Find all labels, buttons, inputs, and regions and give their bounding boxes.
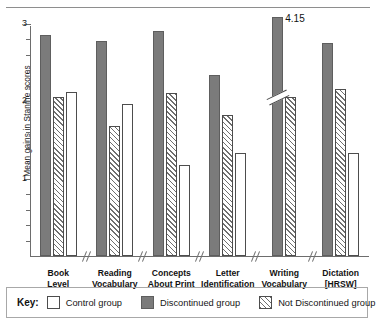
bar-notdiscontinued [335, 89, 346, 256]
bar-discontinued [96, 41, 107, 256]
y-tick-minor [26, 241, 31, 242]
bar-notdiscontinued [53, 97, 64, 256]
legend-box: Key: Control groupDiscontinued groupNot … [6, 287, 368, 318]
y-tick-minor [26, 132, 31, 133]
bar-notdiscontinued [109, 126, 120, 256]
bar-notdiscontinued [285, 97, 296, 256]
category-label: BookLevel [30, 268, 87, 289]
category-label-line: Dictation [313, 268, 370, 279]
y-tick-minor [26, 86, 31, 87]
x-axis-break [137, 251, 149, 262]
bar-discontinued [40, 35, 51, 256]
y-tick-minor [26, 194, 31, 195]
category-label-line: Writing [256, 268, 313, 279]
category-label-line: Concepts [143, 268, 200, 279]
legend-label: Not Discontinued group [278, 298, 375, 308]
plot-area: Mean gains in Stanine scores 123 4.15 Bo… [0, 12, 375, 264]
y-axis-line [30, 26, 31, 257]
bar-discontinued [153, 31, 164, 256]
y-tick-minor [26, 55, 31, 56]
bar-control [179, 165, 190, 256]
x-axis-break [250, 251, 262, 262]
y-tick-minor [26, 210, 31, 211]
category-label: WritingVocabulary [256, 268, 313, 289]
legend-swatch-notdiscontinued [259, 296, 272, 309]
category-label: ReadingVocabulary [87, 268, 144, 289]
y-tick-minor [26, 148, 31, 149]
bar-control [122, 104, 133, 256]
category-label: Dictation[HRSW] [313, 268, 370, 289]
y-tick-label: 2 [3, 95, 27, 105]
category-label-line: Book [30, 268, 87, 279]
category-label-line: Letter [200, 268, 257, 279]
bar-notdiscontinued [166, 93, 177, 256]
bar-discontinued [209, 75, 220, 256]
bar-discontinued [272, 17, 283, 256]
legend-label: Control group [66, 298, 122, 308]
legend-items: Control groupDiscontinued groupNot Disco… [47, 296, 380, 309]
bar-control [235, 153, 246, 256]
bar-control [348, 153, 359, 256]
legend-item[interactable]: Not Discontinued group [259, 296, 375, 309]
category-label: LetterIdentification [200, 268, 257, 289]
y-tick-minor [26, 225, 31, 226]
bar-control [66, 92, 77, 256]
x-axis-break [307, 251, 319, 262]
legend-item[interactable]: Discontinued group [141, 296, 240, 309]
legend-swatch-discontinued [141, 296, 154, 309]
y-tick-minor [26, 70, 31, 71]
bar-value-label: 4.15 [285, 13, 304, 24]
legend-label: Discontinued group [160, 298, 240, 308]
category-label: ConceptsAbout Print [143, 268, 200, 289]
bar-discontinued [322, 43, 333, 256]
y-tick-minor [26, 39, 31, 40]
top-rule [6, 7, 370, 8]
legend-item[interactable]: Control group [47, 296, 122, 309]
y-tick-minor [26, 163, 31, 164]
category-label-line: Reading [87, 268, 144, 279]
x-axis-break [81, 251, 93, 262]
y-tick-label: 1 [3, 173, 27, 183]
y-tick-label: 3 [3, 18, 27, 28]
legend-swatch-control [47, 296, 60, 309]
legend-title: Key: [17, 297, 39, 308]
y-tick-minor [26, 117, 31, 118]
x-axis-break [194, 251, 206, 262]
bar-notdiscontinued [222, 115, 233, 256]
